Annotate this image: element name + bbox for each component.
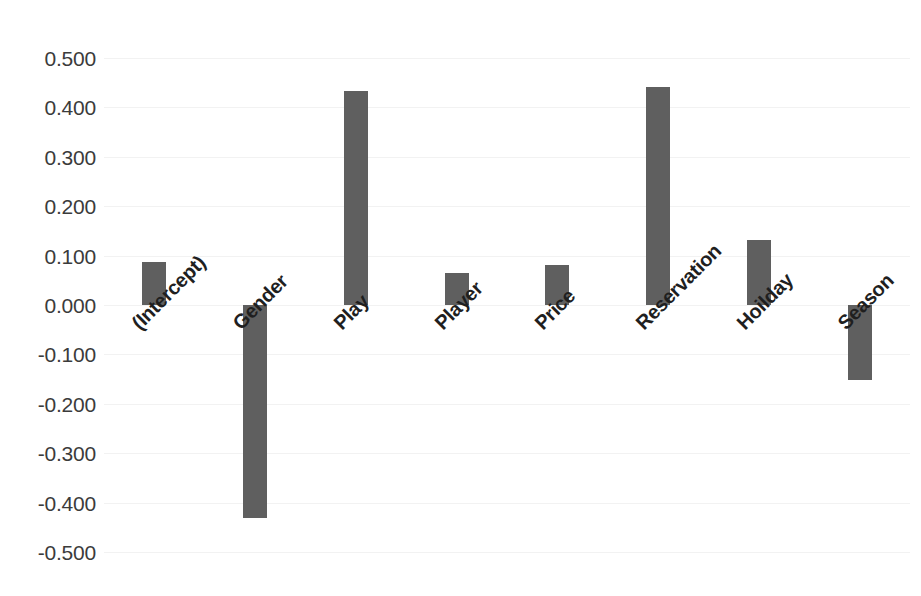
y-axis-tick-label: 0.300: [10, 146, 96, 167]
gridline: [104, 256, 910, 257]
bar: [747, 240, 771, 305]
y-axis-tick-label: -0.300: [10, 443, 96, 464]
gridline: [104, 404, 910, 405]
y-axis-tick-label: 0.400: [10, 97, 96, 118]
bar: [545, 265, 569, 305]
y-axis-tick-label: 0.500: [10, 48, 96, 69]
y-axis-tick-label: -0.400: [10, 492, 96, 513]
bar: [344, 91, 368, 305]
bar-chart: 0.5000.4000.3000.2000.1000.000-0.100-0.2…: [0, 0, 921, 596]
bar: [142, 262, 166, 305]
bar: [445, 273, 469, 305]
gridline: [104, 503, 910, 504]
y-axis-tick-label: 0.000: [10, 295, 96, 316]
bar: [848, 305, 872, 380]
gridline: [104, 58, 910, 59]
y-axis-tick-label: 0.200: [10, 196, 96, 217]
bar: [243, 305, 267, 518]
gridline: [104, 453, 910, 454]
gridline: [104, 206, 910, 207]
y-axis-tick-label: -0.200: [10, 393, 96, 414]
gridline: [104, 305, 910, 306]
y-axis-tick-label: -0.500: [10, 542, 96, 563]
y-axis-tick-labels: 0.5000.4000.3000.2000.1000.000-0.100-0.2…: [0, 58, 96, 552]
bar: [646, 87, 670, 305]
gridline: [104, 552, 910, 553]
gridline: [104, 157, 910, 158]
y-axis-tick-label: -0.100: [10, 344, 96, 365]
y-axis-tick-label: 0.100: [10, 245, 96, 266]
plot-area: [104, 58, 910, 552]
gridline: [104, 354, 910, 355]
gridline: [104, 107, 910, 108]
